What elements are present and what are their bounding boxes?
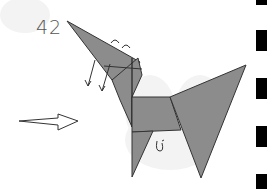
edge-bar	[256, 78, 267, 99]
direction-arrow-icon	[19, 114, 78, 130]
origami-diagram: 42	[0, 0, 267, 189]
edge-bar	[256, 126, 267, 147]
edge-bar	[256, 30, 267, 51]
step-number: 42	[36, 16, 62, 38]
edge-bar	[256, 0, 267, 5]
edge-bar	[256, 174, 267, 189]
